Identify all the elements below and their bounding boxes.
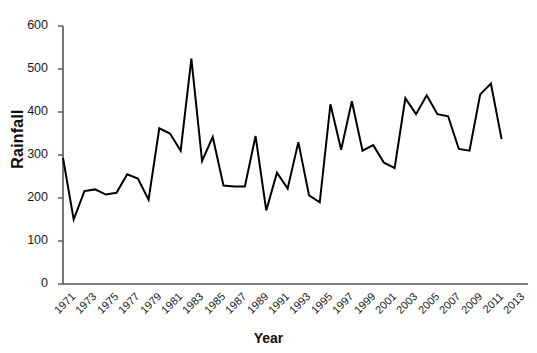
plot-area: [0, 0, 537, 353]
rainfall-data-line: [63, 59, 502, 220]
rainfall-line-chart: Rainfall Year 0100200300400500600 197119…: [0, 0, 537, 353]
